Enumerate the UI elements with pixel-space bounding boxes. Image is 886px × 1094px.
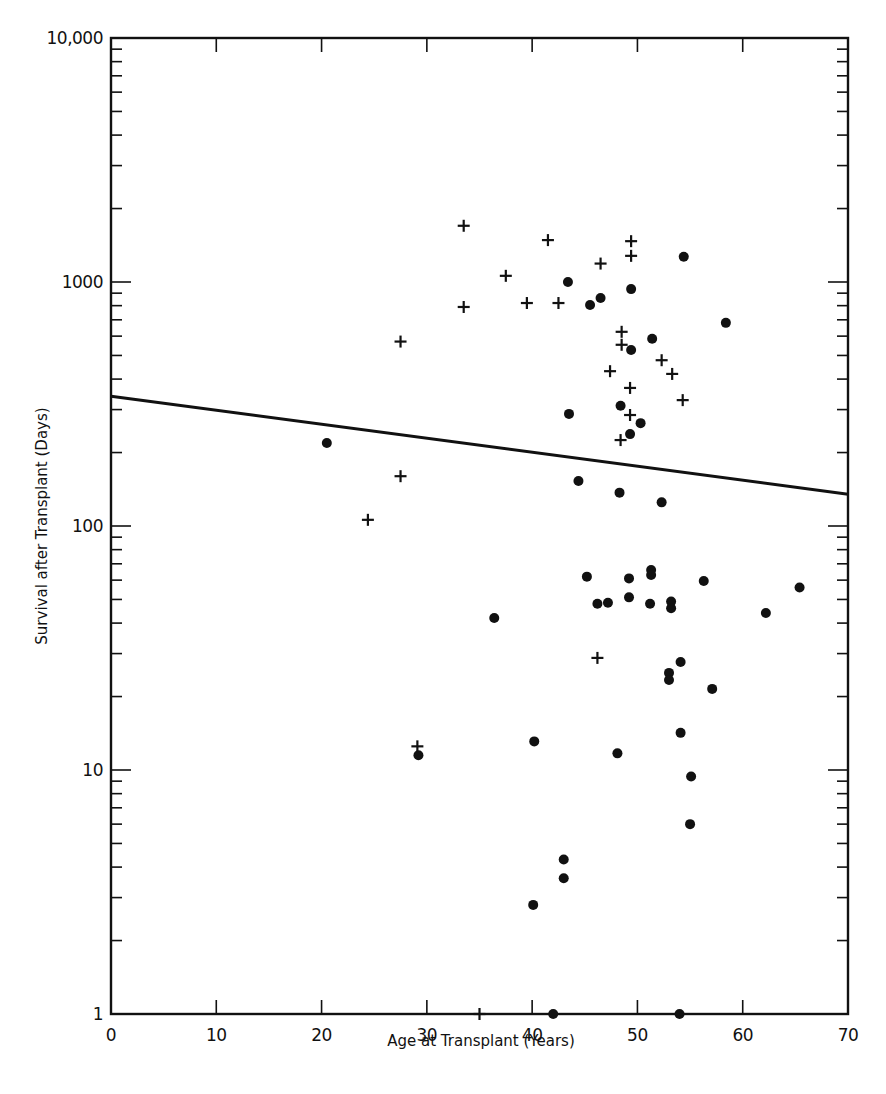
dot-marker	[685, 819, 695, 829]
dot-marker	[596, 293, 606, 303]
dot-marker	[675, 1009, 685, 1019]
plus-marker	[604, 365, 616, 377]
plus-marker	[458, 301, 470, 313]
dot-marker	[795, 582, 805, 592]
plus-marker	[656, 354, 668, 366]
dot-marker	[761, 608, 771, 618]
dot-marker	[626, 284, 636, 294]
dot-marker	[616, 401, 626, 411]
dot-marker	[582, 572, 592, 582]
dot-marker	[646, 570, 656, 580]
plus-marker	[625, 235, 637, 247]
dot-marker	[563, 277, 573, 287]
plus-marker	[552, 297, 564, 309]
dot-marker	[573, 476, 583, 486]
y-tick-label: 1	[93, 1004, 103, 1024]
x-axis-title: Age at Transplant (Years)	[387, 1032, 575, 1050]
scatter-chart: 010203040506070110100100010,000 Age at T…	[0, 0, 886, 1094]
axis-tick-labels: 010203040506070110100100010,000	[47, 28, 859, 1045]
plus-marker	[625, 250, 637, 262]
y-tick-label: 100	[72, 516, 103, 536]
dot-marker	[625, 429, 635, 439]
data-points	[322, 220, 805, 1020]
plus-marker	[666, 368, 678, 380]
plus-marker	[395, 336, 407, 348]
dot-marker	[564, 409, 574, 419]
x-tick-label: 0	[106, 1025, 116, 1045]
plus-marker	[362, 514, 374, 526]
y-tick-label: 10	[82, 760, 103, 780]
dot-marker	[699, 576, 709, 586]
plus-marker	[677, 394, 689, 406]
axes	[111, 38, 848, 1014]
plus-marker	[616, 339, 628, 351]
dot-marker	[676, 657, 686, 667]
dot-marker	[636, 418, 646, 428]
dot-marker	[686, 772, 696, 782]
plus-marker	[411, 740, 423, 752]
dot-marker	[676, 728, 686, 738]
plus-marker	[616, 326, 628, 338]
dot-marker	[721, 318, 731, 328]
y-tick-label: 10,000	[47, 28, 103, 48]
dot-marker	[624, 592, 634, 602]
dot-marker	[647, 334, 657, 344]
x-tick-label: 50	[627, 1025, 648, 1045]
dot-marker	[624, 573, 634, 583]
dot-marker	[528, 900, 538, 910]
dot-marker	[529, 736, 539, 746]
dot-marker	[666, 603, 676, 613]
plus-marker	[591, 652, 603, 664]
dot-marker	[645, 599, 655, 609]
dot-marker	[707, 684, 717, 694]
dot-marker	[559, 873, 569, 883]
dot-marker	[615, 488, 625, 498]
dot-marker	[626, 345, 636, 355]
dot-marker	[585, 300, 595, 310]
y-tick-label: 1000	[62, 272, 103, 292]
regression-line-path	[111, 396, 848, 494]
plus-marker	[542, 234, 554, 246]
dot-marker	[592, 599, 602, 609]
dot-marker	[489, 613, 499, 623]
x-tick-label: 20	[311, 1025, 332, 1045]
plus-marker	[458, 220, 470, 232]
plus-marker	[521, 297, 533, 309]
axis-ticks	[111, 38, 848, 1014]
dot-marker	[612, 748, 622, 758]
plus-marker	[595, 258, 607, 270]
x-tick-label: 60	[732, 1025, 753, 1045]
dot-marker	[559, 854, 569, 864]
y-axis-title: Survival after Transplant (Days)	[33, 407, 51, 644]
regression-line	[111, 396, 848, 494]
dot-marker	[657, 497, 667, 507]
dot-marker	[679, 252, 689, 262]
plus-marker	[624, 409, 636, 421]
plot-frame	[111, 38, 848, 1014]
x-tick-label: 70	[838, 1025, 859, 1045]
dot-marker	[548, 1009, 558, 1019]
plus-marker	[395, 470, 407, 482]
x-tick-label: 10	[206, 1025, 227, 1045]
dot-marker	[322, 438, 332, 448]
plus-marker	[624, 382, 636, 394]
dot-marker	[603, 598, 613, 608]
plus-marker	[474, 1008, 486, 1020]
plus-marker	[615, 434, 627, 446]
dot-marker	[664, 675, 674, 685]
plus-marker	[500, 270, 512, 282]
